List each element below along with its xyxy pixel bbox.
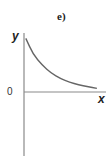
data-curve <box>26 38 97 88</box>
chart-figure: e) y x 0 <box>0 0 112 161</box>
plot-area <box>0 0 112 161</box>
